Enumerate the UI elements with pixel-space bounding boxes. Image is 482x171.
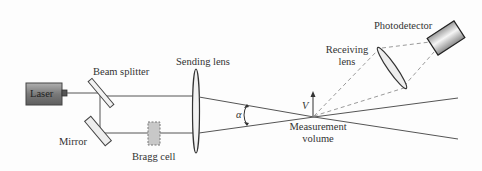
measurement-volume-label: Measurement volume bbox=[283, 121, 353, 145]
beam-splitter-label: Beam splitter bbox=[93, 66, 149, 78]
alpha-arrow-bottom bbox=[244, 122, 249, 126]
mirror-label: Mirror bbox=[59, 136, 87, 148]
mirror bbox=[85, 116, 112, 146]
photodetector bbox=[427, 21, 465, 55]
alpha-arc bbox=[244, 105, 247, 125]
sending-lens bbox=[193, 69, 200, 153]
receiving-lens-label: Receiving lens bbox=[317, 44, 377, 68]
bragg-cell-label: Bragg cell bbox=[132, 151, 175, 163]
upper-beam bbox=[67, 93, 195, 96]
laser-label: Laser bbox=[30, 88, 53, 100]
sending-lens-label: Sending lens bbox=[176, 56, 230, 68]
receiving-lens-line2: lens bbox=[317, 56, 377, 68]
measurement-volume-line1: Measurement bbox=[283, 121, 353, 133]
measurement-volume-line2: volume bbox=[283, 133, 353, 145]
receiving-lens bbox=[374, 45, 409, 91]
photodetector-label: Photodetector bbox=[374, 20, 432, 32]
ldv-diagram: Laser Beam splitter Mirror Bragg cell Se… bbox=[0, 0, 482, 171]
velocity-arrow bbox=[311, 91, 316, 116]
receiving-lens-line1: Receiving bbox=[317, 44, 377, 56]
alpha-label: α bbox=[236, 109, 242, 121]
bragg-cell bbox=[148, 122, 160, 145]
velocity-label: V bbox=[302, 100, 308, 112]
